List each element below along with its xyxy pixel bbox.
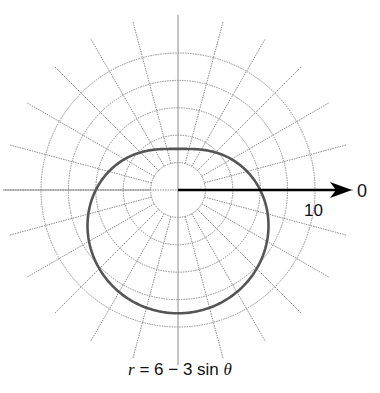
grid-ray [26,103,154,177]
grid-ray [54,209,158,313]
radial-tick-label: 10 [304,201,323,220]
equation-caption: r = 6 − 3 sin θ [0,360,360,380]
grid-ray [54,66,158,170]
grid-ray [192,38,266,166]
grid-ray [204,197,347,235]
grid-ray [9,145,152,183]
grid-ray [197,66,301,170]
grid-ray [26,204,154,278]
grid-ray [91,38,165,166]
grid-ray [197,209,301,313]
grid-ray [202,103,330,177]
caption-r: r [128,360,135,379]
caption-rest: = 6 − 3 sin [135,360,224,379]
grid-ray [91,214,165,342]
axis-label-zero: 0 [357,181,367,201]
grid-ray [9,197,152,235]
caption-theta: θ [224,360,232,379]
grid-ray [192,214,266,342]
polar-plot: 0 10 [0,0,380,393]
